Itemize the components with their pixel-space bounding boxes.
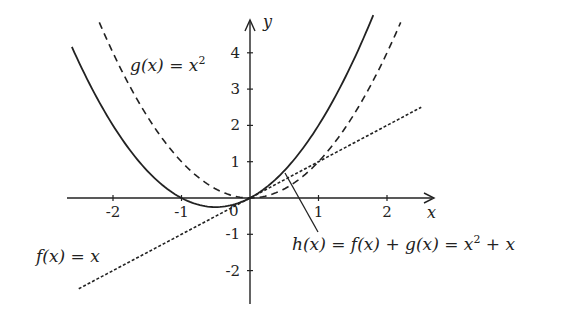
y-tick-label: -1 xyxy=(225,225,240,243)
h-function-label: h(x) = f(x) + g(x) = x2 + x xyxy=(292,233,515,254)
g-label-text: g(x) = x xyxy=(130,55,199,75)
x-tick-label: 2 xyxy=(382,203,392,221)
h-curve xyxy=(72,15,373,207)
y-tick-label: 2 xyxy=(230,116,240,134)
y-tick-label: 3 xyxy=(230,80,240,98)
function-plot: -2-112-2-11234 x y 0 g(x) = x2 f(x) = x … xyxy=(0,0,571,326)
x-axis-label: x xyxy=(427,203,436,222)
y-tick-label: 4 xyxy=(230,44,240,62)
g-label-superscript: 2 xyxy=(198,54,205,67)
y-tick-label: 1 xyxy=(230,153,240,171)
x-tick-label: -1 xyxy=(174,203,189,221)
x-tick-label: 1 xyxy=(314,203,324,221)
h-label-text-tail: + x xyxy=(480,234,515,254)
h-label-text: h(x) = f(x) + g(x) = x xyxy=(292,234,474,254)
h-label-superscript: 2 xyxy=(473,233,480,246)
y-axis-label: y xyxy=(262,12,273,31)
y-tick-label: -2 xyxy=(225,262,240,280)
x-tick-label: -2 xyxy=(106,203,121,221)
g-function-label: g(x) = x2 xyxy=(130,54,205,75)
origin-label: 0 xyxy=(229,202,239,220)
f-function-label: f(x) = x xyxy=(34,246,100,266)
